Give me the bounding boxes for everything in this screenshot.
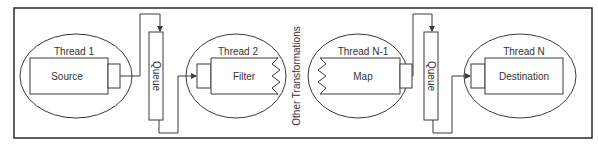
map-output-port <box>400 64 412 88</box>
map-label: Map <box>353 71 373 82</box>
other-transformations-label: Other Transformations <box>291 26 302 125</box>
thread-2-group: Thread 2 Filter <box>186 34 286 118</box>
thread-n-minus-1-label: Thread N-1 <box>338 46 389 57</box>
source-output-port <box>108 64 120 88</box>
thread-1-label: Thread 1 <box>54 46 94 57</box>
queue-2-label: Queue <box>426 61 437 91</box>
thread-n-label: Thread N <box>503 46 545 57</box>
thread-2-label: Thread 2 <box>218 46 258 57</box>
arrow-queue-2-to-destination <box>433 76 470 133</box>
destination-input-port <box>471 64 485 88</box>
source-label: Source <box>51 71 83 82</box>
destination-label: Destination <box>499 71 549 82</box>
thread-n-minus-1-group: Thread N-1 Map <box>308 34 412 118</box>
thread-n-group: Thread N Destination <box>464 34 576 118</box>
filter-input-port <box>197 64 211 88</box>
queue-1-label: Queue <box>151 61 162 91</box>
arrow-queue-1-to-filter <box>159 76 196 133</box>
filter-label: Filter <box>233 71 256 82</box>
thread-1-group: Thread 1 Source <box>20 34 132 118</box>
pipeline-diagram: Thread 1 Source Queue Thread 2 Filter Ot… <box>0 0 598 148</box>
queue-2-group: Queue <box>424 32 438 120</box>
queue-1-group: Queue <box>149 32 163 120</box>
